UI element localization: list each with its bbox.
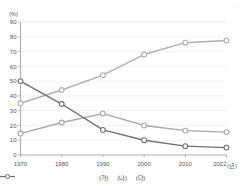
line-chart-plot: 9080706050403020100197019801990200020102…: [0, 0, 244, 186]
legend-label-ga: (가): [99, 173, 108, 182]
y-axis-tick-label: 60: [10, 64, 17, 70]
legend-item-ga[interactable]: (가): [99, 173, 108, 182]
chart-container: (%) ⌐ 9080706050403020100197019801990200…: [0, 0, 244, 186]
y-axis-tick-label: 70: [10, 49, 17, 55]
x-axis-tick-label: 1970: [14, 161, 28, 167]
series-line: [21, 114, 227, 134]
x-axis-tick-label: 2010: [179, 161, 193, 167]
x-axis-tick-label: 1980: [55, 161, 69, 167]
data-point-marker: [59, 120, 64, 125]
chart-legend: (가) (나) (다): [0, 173, 244, 182]
data-point-marker: [224, 145, 229, 150]
data-point-marker: [183, 144, 188, 149]
y-axis-tick-label: 40: [10, 93, 17, 99]
x-axis-tick-label: 1990: [96, 161, 110, 167]
data-point-marker: [183, 40, 188, 45]
legend-marker-da: [0, 173, 15, 180]
legend-item-da[interactable]: (다): [136, 173, 145, 182]
y-axis-tick-label: 20: [10, 123, 17, 129]
x-axis-tick-label: 2000: [137, 161, 151, 167]
data-point-marker: [59, 102, 64, 107]
y-axis-tick-label: 80: [10, 34, 17, 40]
data-point-marker: [224, 38, 229, 43]
data-point-marker: [101, 73, 106, 78]
y-axis-tick-label: 10: [10, 137, 17, 143]
data-point-marker: [101, 111, 106, 116]
series-line: [21, 40, 227, 103]
data-point-marker: [18, 131, 23, 136]
y-axis-tick-label: 30: [10, 108, 17, 114]
y-axis-tick-label: 0: [13, 152, 17, 158]
legend-label-na: (나): [117, 173, 126, 182]
data-point-marker: [224, 130, 229, 135]
data-point-marker: [101, 127, 106, 132]
x-axis-unit-label: (년): [227, 161, 237, 170]
data-point-marker: [142, 123, 147, 128]
legend-label-da: (다): [136, 173, 145, 182]
y-axis-tick-label: 50: [10, 78, 17, 84]
series-line: [21, 81, 227, 148]
data-point-marker: [142, 138, 147, 143]
data-point-marker: [59, 88, 64, 93]
y-axis-tick-label: 90: [10, 19, 17, 25]
data-point-marker: [18, 101, 23, 106]
data-point-marker: [18, 79, 23, 84]
data-point-marker: [183, 128, 188, 133]
x-axis-tick-label: 2022: [213, 161, 227, 167]
legend-item-na[interactable]: (나): [117, 173, 126, 182]
data-point-marker: [142, 52, 147, 57]
